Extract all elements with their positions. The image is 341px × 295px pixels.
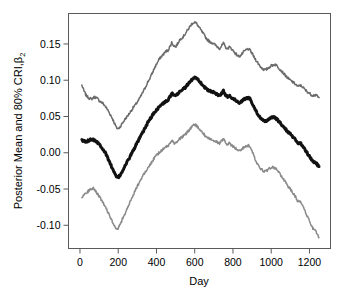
x-tick-label: 200 [109,256,127,268]
x-tick-label: 400 [148,256,166,268]
x-axis-title: Day [189,275,209,287]
x-tick-label: 1000 [260,256,284,268]
x-tick-label: 0 [77,256,83,268]
y-tick-label: -0.10 [37,219,61,231]
y-axis-title-text: Posterior Mean and 80% CRI, [12,63,24,209]
posterior-mean-cri-line-chart: 0.150.100.050.00-0.05-0.10 0200400600800… [0,0,341,295]
y-tick-label: 0.00 [40,146,61,158]
x-tick-label: 600 [186,256,204,268]
y-tick-label: 0.05 [40,110,61,122]
x-tick-label: 800 [224,256,242,268]
y-tick-label: 0.15 [40,38,61,50]
chart-figure: 0.150.100.050.00-0.05-0.10 0200400600800… [0,0,341,295]
y-tick-label: -0.05 [37,183,61,195]
y-axis-title-subscript: 2 [18,53,27,57]
y-tick-label: 0.10 [40,74,61,86]
x-tick-label: 1200 [298,256,322,268]
